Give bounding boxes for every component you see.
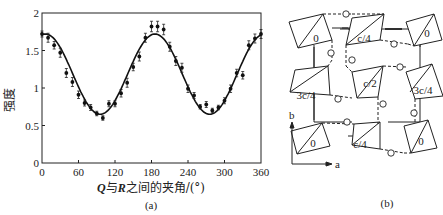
- y-tick-label: 0.5: [25, 120, 39, 132]
- marker: [144, 36, 148, 40]
- data-point: [64, 69, 68, 78]
- chart-a: 00.511.52 060120180240300360 强度 Q与R之间的夹角…: [0, 0, 280, 215]
- marker: [223, 99, 227, 103]
- marker: [150, 25, 154, 29]
- a-arrow-icon: [326, 162, 332, 166]
- x-tick-label: 180: [143, 166, 160, 178]
- x-tick-label: 240: [180, 166, 197, 178]
- oxygen-atom-icon: [397, 64, 403, 70]
- y-tick-label: 1: [34, 82, 40, 94]
- marker: [95, 112, 99, 116]
- x-tick-label: 360: [253, 166, 270, 178]
- marker: [198, 105, 202, 109]
- axis-label-b: b: [289, 109, 295, 121]
- height-label: 3c/4: [297, 89, 316, 101]
- marker: [137, 55, 141, 59]
- marker: [259, 32, 263, 36]
- marker: [247, 43, 251, 47]
- x-axis-title: Q与R之间的夹角/(°): [97, 180, 205, 195]
- y-tick-label: 2: [34, 7, 40, 19]
- polyhedron-cell: 3c/4: [290, 66, 330, 101]
- height-label: c/2: [363, 77, 376, 89]
- height-label: c/4: [353, 138, 367, 150]
- data-point: [210, 108, 214, 113]
- marker: [46, 36, 50, 40]
- marker: [162, 28, 166, 32]
- marker: [174, 59, 178, 63]
- marker: [71, 80, 75, 84]
- marker: [107, 102, 111, 106]
- marker: [40, 32, 44, 36]
- marker: [235, 71, 239, 75]
- polyhedra: 0c/403c/4c/23c/40c/40: [289, 14, 443, 154]
- height-label: 0: [313, 32, 319, 44]
- data-point: [259, 30, 263, 39]
- polyhedron-cell: 0: [406, 14, 442, 46]
- marker: [192, 94, 196, 98]
- data-point: [241, 72, 245, 80]
- data-point: [156, 21, 160, 32]
- dashed-bond: [328, 60, 332, 66]
- polyhedron-cell: c/4: [352, 122, 380, 150]
- polyhedron-cell: 0: [291, 123, 330, 154]
- structure-diagram-b: 0c/403c/4c/23c/40c/40 b a (b): [280, 0, 443, 215]
- data-point: [101, 116, 105, 121]
- marker: [77, 93, 81, 97]
- oxygen-atom-icon: [344, 119, 350, 125]
- height-label: 0: [424, 27, 430, 39]
- oxygen-atom-icon: [388, 150, 394, 156]
- data-point: [137, 52, 141, 61]
- data-point: [77, 91, 81, 99]
- data-point: [40, 31, 44, 37]
- oxygen-atom-icon: [328, 50, 334, 56]
- data-point: [204, 102, 208, 108]
- marker: [168, 45, 172, 49]
- data-point: [71, 78, 75, 87]
- x-tick-label: 300: [216, 166, 233, 178]
- chart-caption: (a): [145, 199, 158, 212]
- height-label: 0: [310, 137, 316, 149]
- data-point: [198, 105, 202, 110]
- marker: [58, 51, 62, 55]
- height-label: 0: [418, 135, 424, 147]
- marker: [131, 65, 135, 69]
- data-point: [107, 101, 111, 107]
- x-tick-label: 120: [107, 166, 124, 178]
- oxygen-atom-icon: [343, 11, 349, 17]
- polyhedron-cell: 0: [289, 14, 332, 48]
- marker: [89, 106, 93, 110]
- marker: [52, 43, 56, 47]
- marker: [253, 37, 257, 41]
- marker: [217, 106, 221, 110]
- oxygen-atom-icon: [335, 96, 341, 102]
- marker: [204, 103, 208, 107]
- data-point: [162, 24, 166, 35]
- axis-label-a: a: [335, 158, 340, 170]
- polyhedron-cell: 0: [404, 120, 437, 153]
- data-point: [217, 105, 221, 110]
- marker: [64, 71, 68, 75]
- marker: [186, 87, 190, 91]
- y-tick-label: 1.5: [25, 45, 39, 57]
- marker: [119, 91, 123, 95]
- x-tick-label: 60: [73, 166, 85, 178]
- polyhedron-cell: c/2: [352, 66, 383, 98]
- dashed-bond: [346, 66, 352, 72]
- marker: [113, 102, 117, 106]
- marker: [210, 109, 214, 113]
- marker: [101, 116, 105, 120]
- x-tick-label: 0: [39, 166, 45, 178]
- data-points: [40, 21, 263, 120]
- marker: [241, 73, 245, 77]
- height-label: 3c/4: [414, 84, 433, 96]
- oxygen-atom-icon: [380, 101, 386, 107]
- oxygen-atom-icon: [349, 57, 355, 63]
- polyhedron-cell: 3c/4: [406, 64, 443, 99]
- marker: [229, 87, 233, 91]
- data-point: [52, 42, 56, 50]
- diagram-caption: (b): [381, 197, 394, 210]
- y-axis-title: 强度: [2, 88, 17, 112]
- oxygen-atom-icon: [411, 110, 417, 116]
- marker: [156, 25, 160, 29]
- polyhedron-cell: c/4: [346, 14, 384, 45]
